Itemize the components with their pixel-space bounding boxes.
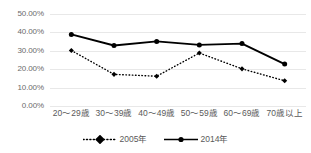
data-point-marker xyxy=(154,39,159,44)
data-point-marker xyxy=(240,41,245,46)
data-point-marker xyxy=(69,32,74,37)
gridline xyxy=(50,106,306,107)
legend-marker-dotted-icon xyxy=(83,135,117,144)
x-axis-tick-label: 60～69歳 xyxy=(224,109,261,118)
line-chart: 0.00%10.00%20.00%30.00%40.00%50.00% 20～2… xyxy=(0,0,311,153)
data-point-marker xyxy=(111,72,116,77)
legend-entry-2005: 2005年 xyxy=(83,135,148,144)
data-point-marker xyxy=(197,50,202,55)
legend-label-2005: 2005年 xyxy=(120,135,148,144)
y-axis-tick-label: 10.00% xyxy=(17,84,44,92)
x-axis-tick-label: 30～39歳 xyxy=(96,109,133,118)
plot-area xyxy=(50,14,306,106)
data-point-marker xyxy=(239,66,244,71)
y-axis-tick-labels: 0.00%10.00%20.00%30.00%40.00%50.00% xyxy=(0,14,48,106)
y-axis-tick-label: 0.00% xyxy=(22,102,44,110)
data-point-marker xyxy=(282,78,287,83)
x-axis-tick-labels: 20～29歳30～39歳40～49歳50～59歳60～69歳70歳以上 xyxy=(50,109,306,123)
data-point-marker xyxy=(282,62,287,67)
x-axis-tick-label: 50～59歳 xyxy=(181,109,218,118)
x-axis-tick-label: 20～29歳 xyxy=(53,109,90,118)
x-axis-tick-label: 70歳以上 xyxy=(266,109,302,118)
series-line-2005年 xyxy=(71,50,284,80)
data-point-marker xyxy=(197,42,202,47)
y-axis-tick-label: 50.00% xyxy=(17,10,44,18)
y-axis-tick-label: 30.00% xyxy=(17,47,44,55)
data-point-marker xyxy=(154,74,159,79)
y-axis-tick-label: 40.00% xyxy=(17,28,44,36)
legend-label-2014: 2014年 xyxy=(201,135,229,144)
legend-entry-2014: 2014年 xyxy=(164,135,229,144)
data-point-marker xyxy=(69,48,74,53)
legend-marker-solid-icon xyxy=(164,135,198,144)
data-point-marker xyxy=(112,43,117,48)
y-axis-tick-label: 20.00% xyxy=(17,65,44,73)
chart-legend: 2005年 2014年 xyxy=(0,131,311,147)
series-line-2014年 xyxy=(71,34,284,64)
x-axis-tick-label: 40～49歳 xyxy=(138,109,175,118)
series-layer xyxy=(50,14,306,106)
